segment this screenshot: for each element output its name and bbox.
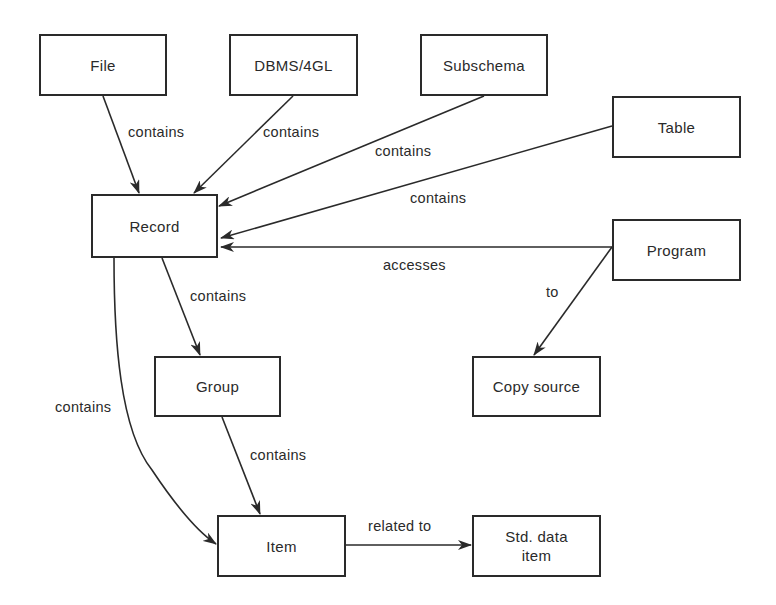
edge-label-program-record: accesses: [383, 257, 446, 273]
edge-program-copysource: [534, 247, 612, 355]
edge-file-record: [103, 96, 139, 193]
node-copy-source: Copy source: [472, 356, 601, 417]
node-subschema: Subschema: [420, 34, 548, 96]
edge-label-group-item: contains: [250, 447, 306, 463]
node-group: Group: [154, 356, 281, 417]
edge-dbms-record: [194, 96, 293, 193]
edge-group-item: [222, 417, 260, 514]
edge-label-record-item: contains: [55, 399, 111, 415]
edge-label-table-record: contains: [410, 190, 466, 206]
node-program: Program: [612, 219, 741, 281]
node-item: Item: [217, 515, 346, 577]
edge-label-file-record: contains: [128, 124, 184, 140]
node-record: Record: [91, 194, 218, 258]
edge-label-record-group: contains: [190, 288, 246, 304]
edge-label-dbms-record: contains: [263, 124, 319, 140]
edge-label-item-stddataitem: related to: [368, 518, 431, 534]
node-std-data-item: Std. data item: [472, 515, 601, 577]
entity-relationship-diagram: File DBMS/4GL Subschema Table Record Pro…: [0, 0, 776, 605]
edge-label-program-copysource: to: [546, 284, 559, 300]
node-dbms-4gl: DBMS/4GL: [229, 34, 358, 96]
node-file: File: [39, 34, 167, 96]
edge-label-subschema-record: contains: [375, 143, 431, 159]
edge-record-group: [162, 258, 200, 355]
node-table: Table: [612, 96, 741, 158]
